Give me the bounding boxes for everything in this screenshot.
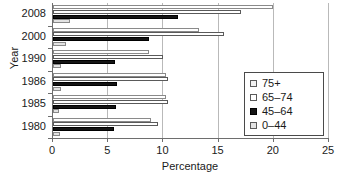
legend-label: 0–44 <box>262 120 286 131</box>
legend-swatch-icon <box>250 94 257 101</box>
y-tick-1990 <box>48 71 52 72</box>
bar-2000-75+ <box>53 28 199 32</box>
y-tick-label-1990: 1990 <box>6 52 46 64</box>
bar-1985-6574 <box>53 100 168 104</box>
bar-chart: Year 0510152025200820001990198619851980 … <box>0 0 338 181</box>
legend-swatch-icon <box>250 122 257 129</box>
legend-label: 45–64 <box>262 106 293 117</box>
y-tick-2000 <box>48 48 52 49</box>
x-axis-line <box>52 138 328 139</box>
y-tick-label-2000: 2000 <box>6 30 46 42</box>
bar-1990-75+ <box>53 50 149 54</box>
y-tick-1986 <box>48 93 52 94</box>
bar-1990-4564 <box>53 60 115 64</box>
x-tick-label-10: 10 <box>147 144 177 156</box>
legend-item-4564[interactable]: 45–64 <box>250 104 319 118</box>
x-tick-label-15: 15 <box>203 144 233 156</box>
x-tick-10 <box>162 138 163 142</box>
bar-1985-75+ <box>53 95 166 99</box>
bar-1980-4564 <box>53 127 114 131</box>
legend-label: 75+ <box>262 78 281 89</box>
bar-2008-75+ <box>53 5 273 9</box>
legend-swatch-icon <box>250 80 257 87</box>
legend-label: 65–74 <box>262 92 293 103</box>
y-tick-label-1980: 1980 <box>6 120 46 132</box>
legend-item-044[interactable]: 0–44 <box>250 118 319 132</box>
bar-1980-044 <box>53 132 60 136</box>
bar-1986-4564 <box>53 82 117 86</box>
bar-2000-044 <box>53 42 66 46</box>
bar-1986-6574 <box>53 77 168 81</box>
bar-2008-4564 <box>53 15 178 19</box>
legend-item-75+[interactable]: 75+ <box>250 76 319 90</box>
x-tick-label-20: 20 <box>258 144 288 156</box>
gridline-15 <box>218 3 219 138</box>
x-tick-0 <box>52 138 53 142</box>
y-tick-2008 <box>48 26 52 27</box>
x-tick-label-0: 0 <box>37 144 67 156</box>
x-tick-label-25: 25 <box>313 144 338 156</box>
bar-1990-6574 <box>53 55 163 59</box>
x-tick-20 <box>273 138 274 142</box>
x-tick-15 <box>218 138 219 142</box>
gridline-25 <box>328 3 329 138</box>
legend-swatch-icon <box>250 108 257 115</box>
bar-1980-75+ <box>53 118 151 122</box>
bar-2000-4564 <box>53 37 149 41</box>
bar-2008-6574 <box>53 10 241 14</box>
x-tick-5 <box>107 138 108 142</box>
y-tick-label-1986: 1986 <box>6 75 46 87</box>
bar-1985-044 <box>53 109 59 113</box>
bar-1985-4564 <box>53 105 116 109</box>
x-tick-label-5: 5 <box>92 144 122 156</box>
legend: 75+65–7445–640–44 <box>244 72 324 136</box>
x-axis-title: Percentage <box>52 160 328 172</box>
y-tick-1985 <box>48 116 52 117</box>
bar-1986-044 <box>53 87 61 91</box>
bar-2000-6574 <box>53 32 224 36</box>
bar-1986-75+ <box>53 73 166 77</box>
bar-2008-044 <box>53 19 70 23</box>
y-tick-1980 <box>48 138 52 139</box>
legend-item-6574[interactable]: 65–74 <box>250 90 319 104</box>
y-tick-label-1985: 1985 <box>6 97 46 109</box>
bar-1980-6574 <box>53 122 158 126</box>
bar-1990-044 <box>53 64 61 68</box>
x-tick-25 <box>328 138 329 142</box>
gridline-10 <box>162 3 163 138</box>
y-tick-label-2008: 2008 <box>6 7 46 19</box>
